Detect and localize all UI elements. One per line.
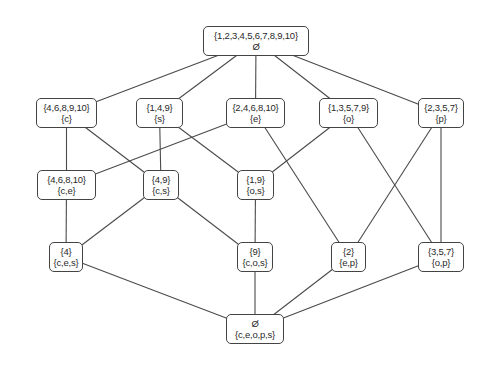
node-intent: {o} bbox=[343, 113, 354, 124]
node-extent: {4,6,8,10} bbox=[47, 174, 86, 185]
node-intent: {e,p} bbox=[339, 257, 358, 268]
node-intent: {c,e,s} bbox=[53, 257, 78, 268]
node-os: {1,9} {o,s} bbox=[237, 170, 274, 200]
node-e: {2,4,6,8,10} {e} bbox=[226, 98, 285, 128]
node-intent: {s} bbox=[154, 113, 165, 124]
node-cos: {9} {c,o,s} bbox=[237, 242, 273, 272]
node-extent: {1,2,3,4,5,6,7,8,9,10} bbox=[214, 30, 298, 41]
node-intent: {c} bbox=[61, 113, 72, 124]
node-top: {1,2,3,4,5,6,7,8,9,10} Ø bbox=[203, 26, 309, 56]
node-o: {1,3,5,7,9} {o} bbox=[319, 98, 378, 128]
node-intent: {e} bbox=[250, 113, 261, 124]
node-bottom: Ø {c,e,o,p,s} bbox=[226, 314, 284, 344]
node-ep: {2} {e,p} bbox=[331, 242, 366, 272]
node-intent: {c,o,s} bbox=[242, 257, 267, 268]
node-extent: Ø bbox=[251, 318, 258, 329]
node-extent: {2} bbox=[343, 246, 354, 257]
node-s: {1,4,9} {s} bbox=[136, 98, 183, 128]
node-op: {3,5,7} {o,p} bbox=[418, 242, 464, 272]
node-extent: {1,3,5,7,9} bbox=[328, 102, 369, 113]
node-intent: {o,p} bbox=[432, 257, 451, 268]
node-extent: {3,5,7} bbox=[428, 246, 454, 257]
node-intent: {c,e,o,p,s} bbox=[235, 329, 275, 340]
node-extent: {4,9} bbox=[152, 174, 171, 185]
node-ce: {4,6,8,10} {c,e} bbox=[37, 170, 96, 200]
node-intent: {c,s} bbox=[152, 185, 170, 196]
node-intent: {p} bbox=[435, 113, 446, 124]
node-extent: {4,6,8,9,10} bbox=[43, 102, 89, 113]
concept-lattice-diagram: {1,2,3,4,5,6,7,8,9,10} Ø {4,6,8,9,10} {c… bbox=[0, 0, 492, 368]
node-extent: {9} bbox=[249, 246, 260, 257]
node-extent: {1,4,9} bbox=[146, 102, 172, 113]
node-intent: {o,s} bbox=[246, 185, 264, 196]
node-intent: {c,e} bbox=[57, 185, 75, 196]
node-extent: {4} bbox=[60, 246, 71, 257]
node-extent: {1,9} bbox=[246, 174, 265, 185]
node-c: {4,6,8,9,10} {c} bbox=[36, 98, 97, 128]
node-extent: {2,4,6,8,10} bbox=[232, 102, 278, 113]
node-ces: {4} {c,e,s} bbox=[49, 242, 83, 272]
node-extent: {2,3,5,7} bbox=[424, 102, 458, 113]
node-p: {2,3,5,7} {p} bbox=[418, 98, 464, 128]
node-cs: {4,9} {c,s} bbox=[143, 170, 179, 200]
node-intent: Ø bbox=[252, 41, 259, 52]
